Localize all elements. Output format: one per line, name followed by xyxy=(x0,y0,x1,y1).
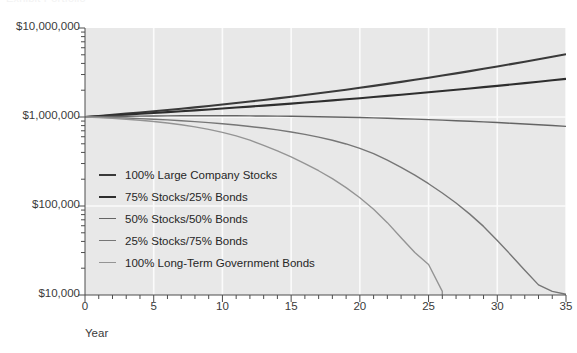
x-axis-labels: 05101520253035 xyxy=(0,300,577,318)
x-axis-title: Year xyxy=(85,327,108,339)
legend-swatch-line-icon xyxy=(99,240,116,241)
legend-item-label: 25% Stocks/75% Bonds xyxy=(125,230,248,252)
legend-swatch-line-icon xyxy=(99,174,116,176)
chart-legend: 100% Large Company Stocks75% Stocks/25% … xyxy=(99,164,359,274)
x-axis-tick-label: 5 xyxy=(134,300,174,312)
x-axis-tick-label: 20 xyxy=(340,300,380,312)
clipped-caption-strip: Exhibit Portfolio xyxy=(0,0,577,9)
legend-item-label: 100% Long-Term Government Bonds xyxy=(125,252,315,274)
y-axis-tick-label: $100,000 xyxy=(2,198,80,210)
legend-item-4[interactable]: 100% Long-Term Government Bonds xyxy=(99,252,359,274)
x-axis-tick-label: 0 xyxy=(65,300,105,312)
legend-item-1[interactable]: 75% Stocks/25% Bonds xyxy=(99,186,359,208)
y-axis-tick-label: $10,000 xyxy=(2,287,80,299)
x-axis-tick-label: 35 xyxy=(546,300,577,312)
legend-item-2[interactable]: 50% Stocks/50% Bonds xyxy=(99,208,359,230)
legend-item-0[interactable]: 100% Large Company Stocks xyxy=(99,164,359,186)
legend-item-label: 75% Stocks/25% Bonds xyxy=(125,186,248,208)
legend-swatch-line-icon xyxy=(99,218,116,219)
y-axis-tick-label: $1,000,000 xyxy=(2,109,80,121)
x-axis-tick-label: 25 xyxy=(409,300,449,312)
legend-item-label: 50% Stocks/50% Bonds xyxy=(125,208,248,230)
x-axis-tick-label: 15 xyxy=(271,300,311,312)
legend-item-label: 100% Large Company Stocks xyxy=(125,164,277,186)
legend-item-3[interactable]: 25% Stocks/75% Bonds xyxy=(99,230,359,252)
y-axis-tick-label: $10,000,000 xyxy=(2,20,80,32)
x-axis-tick-label: 30 xyxy=(477,300,517,312)
legend-swatch-line-icon xyxy=(99,196,116,198)
legend-swatch-line-icon xyxy=(99,262,116,263)
x-axis-tick-label: 10 xyxy=(202,300,242,312)
chart-figure: Exhibit Portfolio $10,000$100,000$1,000,… xyxy=(0,0,577,353)
